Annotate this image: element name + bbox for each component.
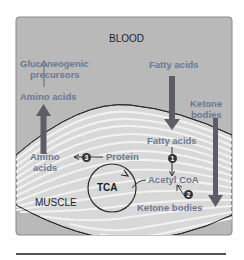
blood-ketone-label-line1: Ketone: [190, 99, 222, 109]
arrow-fatty-in: [169, 76, 175, 122]
tca-label: TCA: [97, 183, 118, 193]
acetyl-coa-label: Acetyl CoA: [148, 175, 199, 185]
muscle-label: MUSCLE: [35, 198, 77, 208]
step-1-badge: 1: [168, 154, 177, 163]
blood-amino-acids-label: Amino acids: [20, 92, 77, 102]
blood-muscle-metabolism-diagram: BLOOD Gluconeogenic precursors Amino aci…: [0, 0, 244, 260]
blood-ketone-label-line2: bodies: [191, 110, 222, 120]
gluconeogenic-label-line1: Gluconeogenic: [20, 59, 89, 69]
muscle-ketone-label: Ketone bodies: [137, 203, 202, 213]
step-2-badge: 2: [184, 190, 193, 199]
blood-fatty-acids-label: Fatty acids: [149, 60, 199, 70]
arrow-amino-out: [41, 114, 47, 154]
gluconeogenic-label-line2: precursors: [30, 70, 80, 80]
muscle-amino-label-line2: acids: [33, 163, 57, 173]
muscle-amino-label-line1: Amino: [30, 152, 60, 162]
arrow-ketone-in: [213, 118, 218, 198]
blood-label: BLOOD: [109, 34, 144, 44]
protein-label: Protein: [106, 152, 139, 162]
step-3-badge: 3: [82, 153, 91, 162]
muscle-fatty-acids-label: Fatty acids: [147, 136, 197, 146]
